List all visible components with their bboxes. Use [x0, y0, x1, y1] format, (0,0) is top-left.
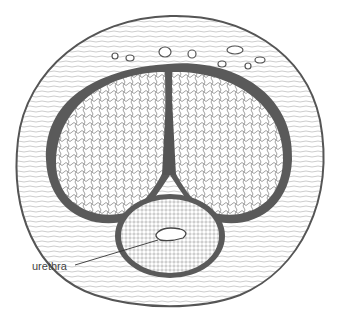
label-urethra: urethra: [32, 260, 67, 272]
urethra-lumen: [156, 228, 186, 241]
figure-caption-cropped: ▬▬ ▬▬ ▬▬▬▬ ▬▬▬▬ ▬▬ ▬▬▬▬ ▬▬: [10, 311, 310, 317]
